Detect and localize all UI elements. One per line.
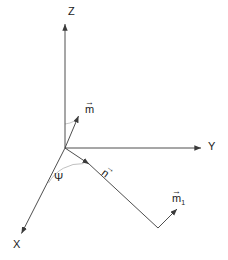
- m1-vector-label: → m 1: [172, 193, 185, 206]
- psi-angle-label: Ψ: [54, 172, 63, 183]
- m-vector-label-stack: → m: [85, 104, 94, 115]
- m-vector-label: → m: [85, 104, 94, 115]
- n-extension-line: [88, 163, 158, 228]
- m1-vector-line: [158, 209, 177, 228]
- vector-arrow-icon: →: [172, 187, 181, 196]
- n-vector-line: [65, 148, 89, 164]
- x-axis-line: [22, 148, 66, 234]
- vector-arrow-icon: →: [85, 98, 94, 107]
- y-axis-label: Y: [208, 141, 215, 152]
- m1-subscript: 1: [181, 199, 185, 206]
- theta-arc: [65, 121, 75, 124]
- diagram-canvas: [0, 0, 228, 260]
- m1-vector-label-stack: → m: [172, 193, 181, 204]
- z-axis-label: Z: [68, 6, 75, 17]
- m-vector-line: [65, 116, 79, 148]
- x-axis-label: X: [13, 239, 20, 250]
- vector-diagram: Z Y X → m → n → m 1 Ψ: [0, 0, 228, 260]
